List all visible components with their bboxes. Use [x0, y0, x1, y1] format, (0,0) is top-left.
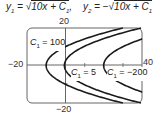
y-min-label: −20 — [56, 104, 71, 114]
x-max-label: 40 — [143, 57, 153, 67]
y-max-label: 20 — [59, 16, 69, 26]
legend-c5: C1 = 5 — [71, 67, 96, 81]
legend-c100: C1 = 100 — [30, 37, 65, 51]
legend-c-200: C1 = −200 — [107, 67, 147, 81]
x-min-label: −20 — [8, 59, 23, 69]
chart-plot — [0, 0, 155, 116]
